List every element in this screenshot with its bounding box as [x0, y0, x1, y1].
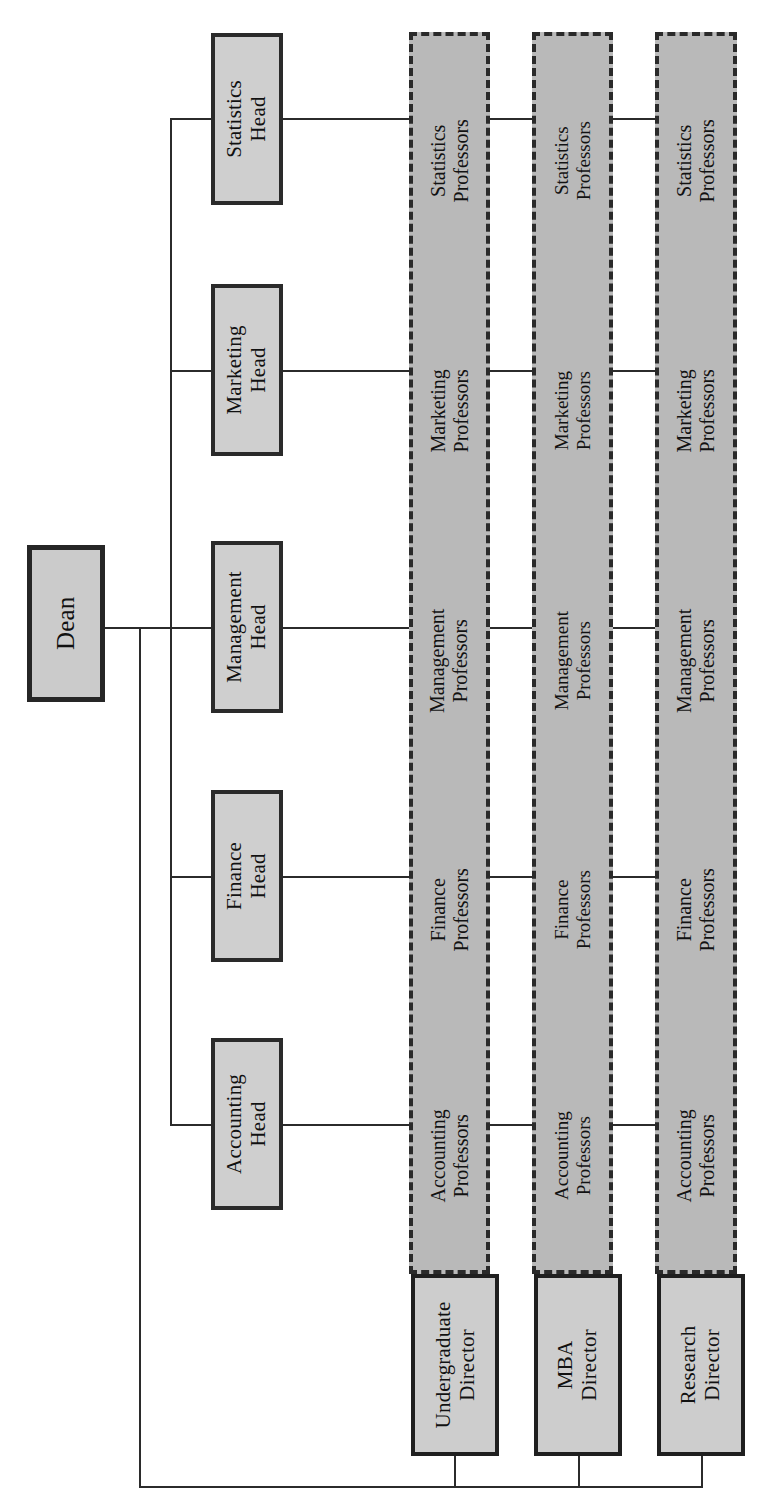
- head-label-line2: Head: [246, 1101, 270, 1146]
- director-label-line2: Director: [700, 1329, 724, 1401]
- professor-cell-marketing[interactable]: Marketing Professors: [536, 286, 609, 536]
- professor-cell-line2: Professors: [573, 1116, 594, 1195]
- professor-column-undergraduate[interactable]: Statistics Professors Marketing Professo…: [409, 32, 490, 1274]
- connector-row-finance-b: [488, 876, 533, 878]
- professor-cell-management[interactable]: Management Professors: [659, 536, 733, 786]
- professor-cell-line2: Professors: [573, 371, 594, 450]
- connector-stub-statistics-head: [170, 118, 215, 120]
- professor-cell-line1: Finance: [673, 878, 695, 941]
- node-finance-head[interactable]: Finance Head: [211, 790, 283, 962]
- node-mba-director[interactable]: MBA Director: [534, 1274, 622, 1456]
- node-management-head[interactable]: Management Head: [211, 541, 283, 713]
- director-label-line2: Director: [577, 1329, 601, 1401]
- professor-cell-line1: Statistics: [673, 125, 695, 197]
- connector-stub-undergraduate-director: [454, 1455, 456, 1488]
- professor-cell-finance[interactable]: Finance Professors: [413, 786, 486, 1034]
- professor-cell-line2: Professors: [696, 1114, 718, 1197]
- connector-row-marketing-c: [611, 370, 656, 372]
- connector-dean-riser: [139, 627, 141, 1488]
- professor-column-research[interactable]: Statistics Professors Marketing Professo…: [655, 32, 737, 1274]
- head-label-line1: Marketing: [222, 325, 246, 414]
- professor-cell-line1: Management: [673, 609, 695, 713]
- professor-cell-line2: Professors: [450, 619, 472, 702]
- node-undergraduate-director[interactable]: Undergraduate Director: [411, 1274, 499, 1456]
- connector-row-marketing-b: [488, 370, 533, 372]
- professor-cell-line1: Accounting: [427, 1109, 449, 1202]
- professor-cell-line1: Finance: [427, 878, 449, 941]
- connector-row-management-a: [281, 627, 412, 629]
- head-label-line2: Head: [246, 347, 270, 392]
- professor-column-mba[interactable]: Statistics Professors Marketing Professo…: [532, 32, 613, 1274]
- professor-cell-statistics[interactable]: Statistics Professors: [659, 36, 733, 286]
- professor-cell-line2: Professors: [696, 369, 718, 452]
- dean-label: Dean: [52, 597, 81, 651]
- professor-cell-line2: Professors: [573, 621, 594, 700]
- professor-cell-statistics[interactable]: Statistics Professors: [536, 36, 609, 286]
- connector-row-management-c: [611, 627, 656, 629]
- professor-cell-marketing[interactable]: Marketing Professors: [659, 286, 733, 536]
- professor-cell-line1: Management: [551, 611, 572, 710]
- head-label-line2: Head: [246, 853, 270, 898]
- professor-cell-line1: Statistics: [551, 127, 572, 196]
- connector-row-finance-c: [611, 876, 656, 878]
- professor-cell-line1: Marketing: [427, 369, 449, 452]
- head-label-line1: Finance: [222, 842, 246, 910]
- professor-cell-line2: Professors: [696, 119, 718, 202]
- professor-cell-line1: Marketing: [551, 371, 572, 450]
- node-accounting-head[interactable]: Accounting Head: [211, 1038, 283, 1210]
- professor-cell-line1: Statistics: [427, 125, 449, 197]
- professor-cell-line1: Finance: [551, 880, 572, 940]
- connector-stub-mba-director: [578, 1455, 580, 1488]
- director-label-line1: MBA: [553, 1341, 577, 1389]
- director-label-line2: Director: [454, 1329, 478, 1401]
- professor-cell-line1: Accounting: [673, 1109, 695, 1202]
- professor-cell-line2: Professors: [696, 619, 718, 702]
- connector-row-accounting-c: [611, 1124, 656, 1126]
- professor-cell-accounting[interactable]: Accounting Professors: [659, 1034, 733, 1278]
- director-label-line1: Undergraduate: [430, 1302, 454, 1429]
- connector-stub-research-director: [701, 1455, 703, 1488]
- node-dean[interactable]: Dean: [27, 545, 105, 702]
- professor-cell-line2: Professors: [450, 868, 472, 951]
- professor-cell-line1: Management: [427, 609, 449, 713]
- professor-cell-line2: Professors: [573, 870, 594, 949]
- head-label-line2: Head: [246, 96, 270, 141]
- professor-cell-line1: Accounting: [551, 1112, 572, 1201]
- professor-cell-line2: Professors: [450, 119, 472, 202]
- node-research-director[interactable]: Research Director: [657, 1274, 745, 1456]
- connector-row-statistics-c: [611, 118, 656, 120]
- professor-cell-line1: Marketing: [673, 369, 695, 452]
- professor-cell-management[interactable]: Management Professors: [413, 536, 486, 786]
- connector-row-marketing-a: [281, 370, 412, 372]
- professor-cell-line2: Professors: [573, 121, 594, 200]
- head-label-line2: Head: [246, 604, 270, 649]
- connector-stub-finance-head: [170, 876, 215, 878]
- connector-stub-management-head: [170, 627, 215, 629]
- head-label-line1: Management: [222, 571, 246, 683]
- connector-stub-accounting-head: [170, 1124, 215, 1126]
- connector-stub-marketing-head: [170, 370, 215, 372]
- professor-cell-finance[interactable]: Finance Professors: [536, 786, 609, 1034]
- professor-cell-accounting[interactable]: Accounting Professors: [413, 1034, 486, 1278]
- connector-heads-spine: [170, 118, 172, 1126]
- connector-row-statistics-a: [281, 118, 412, 120]
- professor-cell-line2: Professors: [696, 868, 718, 951]
- head-label-line1: Accounting: [222, 1074, 246, 1174]
- connector-row-management-b: [488, 627, 533, 629]
- org-chart-canvas: Statistics Professors Marketing Professo…: [0, 0, 767, 1493]
- node-statistics-head[interactable]: Statistics Head: [211, 33, 283, 205]
- connector-dean-to-spine: [103, 627, 173, 629]
- professor-cell-line2: Professors: [450, 369, 472, 452]
- director-label-line1: Research: [676, 1326, 700, 1405]
- professor-cell-finance[interactable]: Finance Professors: [659, 786, 733, 1034]
- professor-cell-statistics[interactable]: Statistics Professors: [413, 36, 486, 286]
- professor-cell-marketing[interactable]: Marketing Professors: [413, 286, 486, 536]
- head-label-line1: Statistics: [222, 80, 246, 158]
- professor-cell-management[interactable]: Management Professors: [536, 536, 609, 786]
- node-marketing-head[interactable]: Marketing Head: [211, 284, 283, 456]
- professor-cell-line2: Professors: [450, 1114, 472, 1197]
- professor-cell-accounting[interactable]: Accounting Professors: [536, 1034, 609, 1278]
- connector-row-accounting-a: [281, 1124, 412, 1126]
- connector-row-statistics-b: [488, 118, 533, 120]
- connector-row-accounting-b: [488, 1124, 533, 1126]
